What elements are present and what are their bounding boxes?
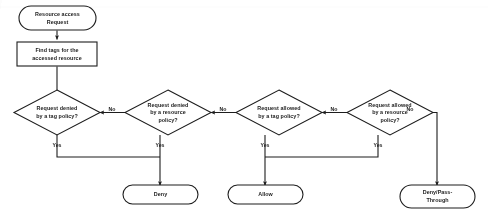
node-find-tags-line2: accessed resource [32, 55, 81, 61]
edge-label-no-2: No [220, 106, 227, 112]
edge-label-no-1: No [109, 106, 116, 112]
edge-label-no-4: No [407, 106, 414, 112]
node-allow-label: Allow [258, 191, 273, 197]
flowchart-svg: Resource access Request Find tags for th… [0, 0, 488, 219]
edge-label-yes-3: Yes [261, 142, 270, 148]
connector-yes-decision1-to-deny [57, 135, 160, 157]
connector-yes-decision4-to-allow [265, 135, 378, 157]
node-deny-pass-through-line2: Through [426, 197, 448, 203]
flowchart-canvas: Resource access Request Find tags for th… [0, 0, 488, 219]
edge-label-yes-4: Yes [374, 142, 383, 148]
node-start [19, 6, 96, 30]
edge-label-yes-2: Yes [156, 142, 165, 148]
node-decision-resource-allow-line3: policy? [380, 117, 399, 123]
node-deny-pass-through-line1: Deny/Pass- [423, 189, 453, 195]
node-find-tags-line1: Find tags for the [35, 47, 78, 53]
node-decision-tag-deny-line2: by a tag policy? [36, 113, 78, 119]
node-decision-resource-deny-line2: by a resource [150, 109, 186, 115]
edge-label-yes-1: Yes [53, 142, 62, 148]
node-decision-resource-allow-line2: by a resource [372, 109, 408, 115]
node-start-line1: Resource access [35, 11, 80, 17]
node-deny-label: Deny [154, 191, 167, 197]
connector-no-decision4-to-deny-pass-through [433, 113, 437, 186]
edge-label-no-3: No [331, 106, 338, 112]
node-decision-resource-deny-line1: Request denied [148, 102, 189, 108]
node-decision-tag-deny-line1: Request denied [37, 105, 78, 111]
node-decision-tag-allow-line1: Request allowed [257, 105, 300, 111]
node-decision-tag-allow-line2: by a tag policy? [258, 113, 300, 119]
node-decision-resource-allow-line1: Request allowed [368, 102, 411, 108]
node-decision-resource-deny-line3: policy? [158, 117, 177, 123]
node-start-line2: Request [47, 19, 69, 25]
